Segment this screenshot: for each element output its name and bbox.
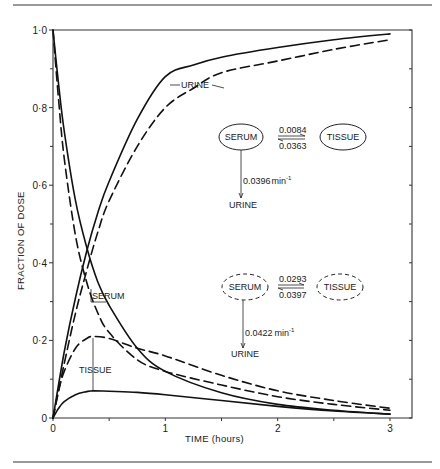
y-axis-label: FRACTION OF DOSE	[15, 191, 26, 290]
y-tick-label: 0·6	[33, 180, 48, 191]
k-tissue-to-serum: 0.0397	[279, 290, 307, 300]
svg-text:TISSUE: TISSUE	[79, 365, 112, 375]
svg-text:URINE: URINE	[181, 80, 209, 90]
x-axis-label: TIME (hours)	[185, 433, 244, 444]
data-curves	[53, 30, 390, 418]
y-tick-label: 0	[41, 413, 47, 424]
tissue-curve-label: TISSUE	[79, 338, 112, 390]
k-elimination: 0.0422min-1	[245, 327, 295, 338]
x-tick-label: 0	[50, 423, 56, 434]
svg-text:SERUM: SERUM	[229, 282, 262, 292]
y-tick-label: 0·4	[33, 258, 48, 269]
tissue-model-2-dashed-curve	[53, 337, 390, 419]
y-tick-label: 1·0	[33, 25, 48, 36]
compartment-diagram-dashed: SERUM TISSUE 0.0293 0.0397 0.0422min-1 U…	[222, 274, 363, 359]
compartment-diagram-solid: SERUM TISSUE 0.0084 0.0363 0.0396min-1 U…	[219, 124, 366, 210]
serum-curve-label: SERUM	[91, 289, 125, 302]
x-tick-label: 3	[387, 423, 393, 434]
urine-model-2-dashed-curve	[53, 40, 390, 418]
svg-text:TISSUE: TISSUE	[324, 282, 357, 292]
k-serum-to-tissue: 0.0084	[279, 125, 307, 135]
x-tick-label: 1	[163, 423, 169, 434]
urine-model-1-solid-curve	[53, 34, 390, 418]
svg-text:SERUM: SERUM	[92, 291, 125, 301]
svg-text:URINE: URINE	[229, 200, 257, 210]
k-serum-to-tissue: 0.0293	[279, 274, 307, 284]
svg-text:URINE: URINE	[231, 349, 259, 359]
svg-text:SERUM: SERUM	[225, 132, 258, 142]
k-tissue-to-serum: 0.0363	[279, 141, 307, 151]
y-tick-label: 0·2	[33, 335, 48, 346]
urine-curve-label: URINE	[170, 80, 224, 90]
svg-text:TISSUE: TISSUE	[327, 132, 360, 142]
x-tick-label: 2	[275, 423, 281, 434]
tissue-model-1-solid-curve	[53, 391, 390, 418]
plot-frame	[53, 30, 412, 418]
k-elimination: 0.0396min-1	[243, 175, 292, 186]
pharmacokinetic-chart: 00·20·40·60·81·00123 TIME (hours) FRACTI…	[0, 0, 440, 469]
y-tick-label: 0·8	[33, 103, 48, 114]
